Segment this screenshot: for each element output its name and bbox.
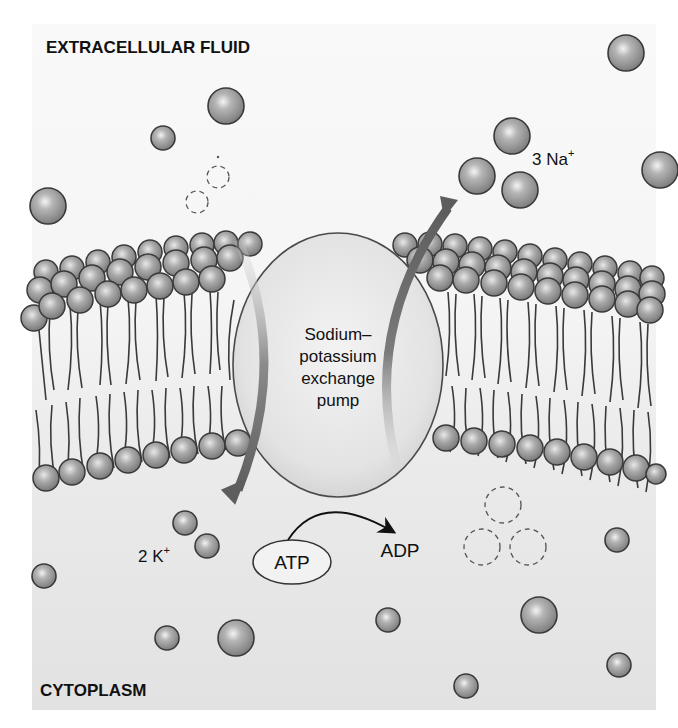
pump-label-line-4: pump: [317, 391, 360, 410]
ion: [155, 626, 179, 650]
diagram-canvas: Sodium– potassium exchange pump ATP ADP: [0, 0, 678, 728]
adp-label: ADP: [380, 540, 419, 561]
ion: [521, 597, 557, 633]
pump-label-line-1: Sodium–: [304, 325, 372, 344]
ion: [376, 608, 400, 632]
ion: [30, 188, 66, 224]
potassium-ion: [195, 534, 219, 558]
cytoplasm-label: CYTOPLASM: [40, 681, 146, 700]
ion: [218, 620, 254, 656]
ion: [642, 152, 678, 188]
dot: [217, 156, 219, 158]
ion: [208, 88, 244, 124]
pump-label-line-2: potassium: [299, 347, 376, 366]
ion: [32, 564, 56, 588]
sodium-ion: [494, 118, 530, 154]
potassium-ion: [173, 511, 197, 535]
extracellular-fluid-label: EXTRACELLULAR FLUID: [46, 38, 250, 57]
sodium-ion: [502, 172, 538, 208]
atp-label: ATP: [274, 552, 310, 573]
ion: [608, 35, 644, 71]
ion: [454, 674, 478, 698]
ion: [151, 126, 175, 150]
sodium-ion: [459, 158, 495, 194]
ion: [607, 653, 631, 677]
pump-label-line-3: exchange: [301, 369, 375, 388]
ion: [605, 528, 629, 552]
